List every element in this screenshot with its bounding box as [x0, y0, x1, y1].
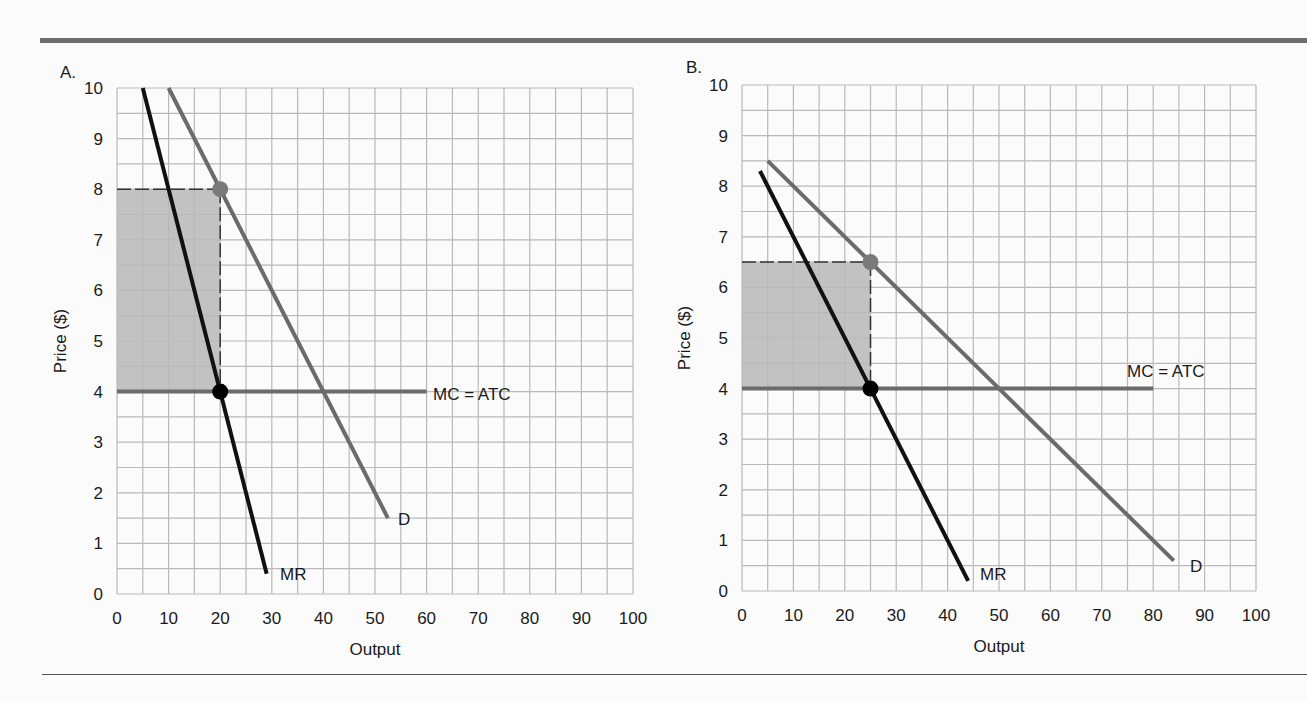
panel-label: B. [686, 58, 702, 77]
mc-atc-label: MC = ATC [433, 385, 511, 404]
x-tick-label: 50 [366, 609, 385, 628]
x-tick-label: 10 [784, 606, 803, 625]
x-axis-title: Output [349, 640, 400, 659]
grid [742, 85, 1256, 591]
y-axis-title: Price ($) [675, 306, 694, 370]
profit-area [742, 262, 871, 389]
y-tick-label: 0 [719, 582, 728, 601]
y-axis-title: Price ($) [51, 309, 70, 373]
demand-point-marker [863, 254, 879, 270]
mr-label: MR [280, 565, 306, 584]
x-tick-label: 80 [520, 609, 539, 628]
y-tick-label: 5 [719, 329, 728, 348]
grid [117, 88, 633, 594]
x-axis-title: Output [973, 637, 1024, 656]
y-tick-label: 10 [84, 79, 103, 98]
x-tick-label: 10 [159, 609, 178, 628]
x-tick-label: 0 [112, 609, 121, 628]
y-tick-label: 1 [94, 534, 103, 553]
mr-mc-intersection-marker [212, 384, 228, 400]
x-tick-label: 100 [1242, 606, 1270, 625]
y-tick-label: 2 [94, 484, 103, 503]
panel-a: A.0123456789100102030405060708090100Outp… [51, 63, 647, 659]
x-tick-label: 70 [469, 609, 488, 628]
demand-label: D [398, 510, 410, 529]
y-tick-label: 7 [94, 231, 103, 250]
x-tick-label: 90 [572, 609, 591, 628]
y-tick-label: 9 [719, 127, 728, 146]
x-tick-label: 0 [737, 606, 746, 625]
y-tick-label: 1 [719, 531, 728, 550]
y-tick-label: 10 [709, 76, 728, 95]
x-tick-label: 20 [835, 606, 854, 625]
y-tick-label: 2 [719, 481, 728, 500]
chart-canvas: A.0123456789100102030405060708090100Outp… [0, 0, 1307, 701]
x-tick-label: 40 [314, 609, 333, 628]
y-tick-label: 5 [94, 332, 103, 351]
x-tick-label: 90 [1195, 606, 1214, 625]
bottom-rule [42, 674, 1307, 675]
mr-mc-intersection-marker [863, 381, 879, 397]
panel-label: A. [60, 63, 76, 82]
x-tick-label: 60 [417, 609, 436, 628]
x-tick-label: 30 [887, 606, 906, 625]
y-tick-label: 3 [719, 430, 728, 449]
x-tick-label: 30 [262, 609, 281, 628]
x-tick-label: 50 [990, 606, 1009, 625]
y-tick-label: 3 [94, 433, 103, 452]
y-tick-label: 0 [94, 585, 103, 604]
y-tick-label: 4 [719, 380, 728, 399]
panel-b: B.0123456789100102030405060708090100Outp… [675, 58, 1270, 656]
x-tick-label: 20 [211, 609, 230, 628]
y-tick-label: 4 [94, 383, 103, 402]
x-tick-label: 70 [1092, 606, 1111, 625]
x-tick-label: 60 [1041, 606, 1060, 625]
mc-atc-label: MC = ATC [1127, 362, 1205, 381]
y-tick-label: 6 [94, 281, 103, 300]
y-tick-label: 7 [719, 228, 728, 247]
x-tick-label: 80 [1144, 606, 1163, 625]
y-tick-label: 8 [94, 180, 103, 199]
y-tick-label: 8 [719, 177, 728, 196]
y-tick-label: 9 [94, 130, 103, 149]
x-tick-label: 40 [938, 606, 957, 625]
demand-label: D [1190, 557, 1202, 576]
y-tick-label: 6 [719, 278, 728, 297]
x-tick-label: 100 [619, 609, 647, 628]
mr-label: MR [980, 565, 1006, 584]
demand-point-marker [212, 181, 228, 197]
